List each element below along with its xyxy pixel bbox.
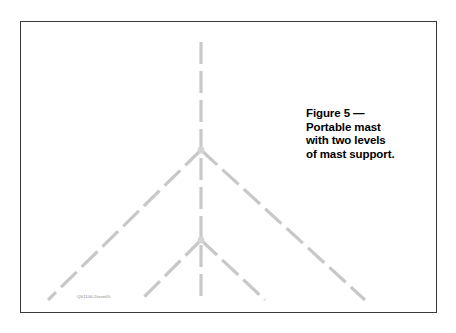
figure-credit-line: QS1106-Dixon05 <box>77 294 110 299</box>
figure-caption: Figure 5 — Portable mast with two levels… <box>306 107 426 161</box>
upper-support-left-line <box>48 150 201 300</box>
lower-support-left-line <box>141 240 201 300</box>
figure-caption-line-4: of mast support. <box>306 148 426 162</box>
upper-support-right-line <box>201 150 365 300</box>
portable-mast-diagram <box>0 0 456 333</box>
figure-caption-line-1: Figure 5 — <box>306 107 426 121</box>
figure-caption-line-3: with two levels <box>306 134 426 148</box>
upper-junction-node <box>198 147 205 154</box>
figure-root: Figure 5 — Portable mast with two levels… <box>0 0 456 333</box>
lower-junction-node <box>198 237 205 244</box>
lower-support-right-line <box>201 240 265 300</box>
figure-caption-line-2: Portable mast <box>306 121 426 135</box>
